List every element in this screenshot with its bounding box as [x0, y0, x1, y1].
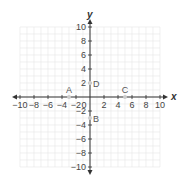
- x-axis-arrow-right-icon: [163, 95, 168, 100]
- x-axis-arrow-left-icon: [12, 95, 17, 100]
- x-tick-label: −4: [57, 100, 67, 110]
- x-tick-label: 2: [101, 100, 106, 110]
- x-tick-label: −6: [43, 100, 53, 110]
- x-tick-label: 6: [129, 100, 134, 110]
- y-tick-label: 2: [81, 78, 86, 88]
- y-tick-label: −8: [76, 148, 86, 158]
- point-c: [123, 95, 127, 99]
- point-label-c: C: [122, 85, 129, 95]
- y-tick-label: −10: [71, 162, 86, 172]
- y-tick-label: −2: [76, 106, 86, 116]
- y-tick-label: −6: [76, 134, 86, 144]
- y-tick-label: 8: [81, 36, 86, 46]
- x-tick-label: 8: [143, 100, 148, 110]
- point-label-d: D: [93, 79, 100, 89]
- y-axis-label: y: [86, 9, 93, 20]
- y-tick-label: 6: [81, 50, 86, 60]
- point-label-b: B: [93, 114, 99, 124]
- point-b: [88, 116, 92, 120]
- x-tick-label: −10: [12, 100, 27, 110]
- y-tick-label: 10: [76, 22, 86, 32]
- coordinate-plane: xy−10−8−6−4−20246810−10−8−6−4−2246810ABC…: [0, 0, 180, 180]
- point-a: [67, 95, 71, 99]
- y-tick-label: 4: [81, 64, 86, 74]
- x-tick-label: 4: [115, 100, 120, 110]
- x-tick-label: 10: [155, 100, 165, 110]
- point-label-a: A: [66, 85, 72, 95]
- point-d: [88, 81, 92, 85]
- y-tick-label: −4: [76, 120, 86, 130]
- y-axis-arrow-down-icon: [88, 170, 93, 175]
- x-tick-label: −8: [29, 100, 39, 110]
- x-axis-label: x: [170, 91, 177, 102]
